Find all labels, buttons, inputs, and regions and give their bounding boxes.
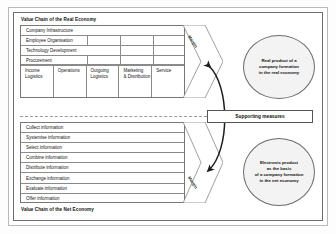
support-activity-label: Technology Development — [21, 48, 77, 53]
column-divider — [87, 36, 88, 45]
bottom-chain-title: Value Chain of the Net Economy — [21, 207, 94, 212]
net-activity-label: Distribute information — [21, 165, 69, 170]
net-activity-row: Evaluate information — [21, 184, 184, 194]
outcome-ellipse-real-economy: Real product of a company formation in t… — [243, 35, 315, 99]
net-activity-row: Exchange information — [21, 173, 184, 183]
primary-activity-cell: Marketing & Distribution — [119, 65, 152, 97]
support-activity-row: Employee Organisation — [21, 36, 184, 46]
supporting-measures-box: Supporting measures — [207, 110, 313, 123]
supporting-measures-label: Supporting measures — [235, 114, 284, 119]
primary-activity-cell: Outgoing Logistics — [87, 65, 120, 97]
column-divider — [120, 36, 121, 45]
net-activity-row: Distribute information — [21, 163, 184, 173]
chain-divider-dashed — [20, 116, 207, 117]
net-activity-label: Collect information — [21, 125, 63, 130]
real-economy-value-chain: Company Infrastructure Employee Organisa… — [20, 25, 185, 98]
top-chain-title: Value Chain of the Real Economy — [21, 17, 96, 22]
net-activity-label: Combine information — [21, 155, 68, 160]
outcome-label-net-economy: Electronic product as the basis of a com… — [249, 160, 310, 183]
net-activity-label: Select information — [21, 145, 62, 150]
net-activity-row: Combine information — [21, 153, 184, 163]
support-activity-row: Company Infrastructure — [21, 26, 184, 36]
net-activity-label: Systemise information — [21, 135, 70, 140]
diagram-canvas: Value Chain of the Real Economy Company … — [0, 0, 336, 234]
net-activity-row: Collect information — [21, 123, 184, 133]
net-activity-row: Offer information — [21, 194, 184, 204]
net-economy-value-chain: Collect information Systemise informatio… — [20, 122, 185, 203]
primary-activity-cell: Income Logistics — [21, 65, 54, 97]
column-divider — [153, 46, 154, 55]
support-activity-label: Procurement — [21, 58, 52, 63]
primary-activity-cell: Operations — [54, 65, 87, 97]
net-activity-row: Systemise information — [21, 133, 184, 143]
support-activity-label: Company Infrastructure — [21, 28, 73, 33]
column-divider — [153, 36, 154, 45]
support-activity-row: Technology Development — [21, 46, 184, 56]
column-divider — [120, 46, 121, 55]
outcome-ellipse-net-economy: Electronic product as the basis of a com… — [243, 138, 315, 206]
support-activity-label: Employee Organisation — [21, 38, 73, 43]
outcome-label-real-economy: Real product of a company formation in t… — [253, 58, 305, 75]
primary-activity-cell: Service — [152, 65, 184, 97]
net-activity-label: Offer information — [21, 196, 59, 201]
net-activity-label: Exchange information — [21, 176, 70, 181]
net-activity-label: Evaluate information — [21, 186, 67, 191]
primary-activities-row: Income Logistics Operations Outgoing Log… — [21, 64, 184, 97]
net-activity-row: Select information — [21, 143, 184, 153]
